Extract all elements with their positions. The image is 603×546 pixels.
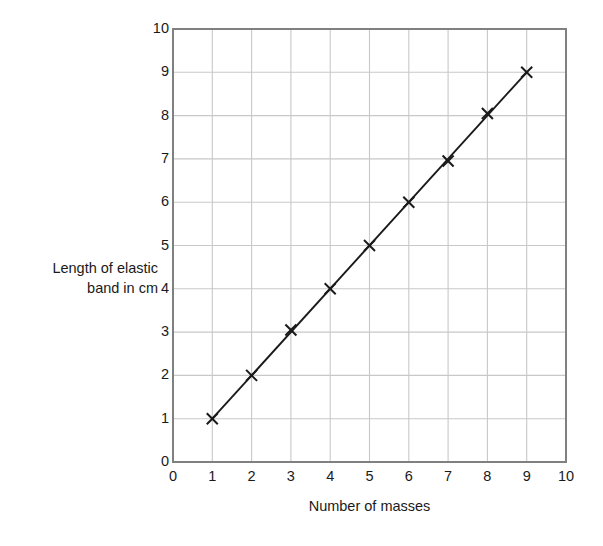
y-tick-label: 10 [143, 20, 169, 36]
y-tick-label: 6 [143, 193, 169, 209]
x-tick-label: 6 [396, 468, 422, 484]
y-tick-label: 8 [143, 107, 169, 123]
x-tick-label: 5 [357, 468, 383, 484]
y-tick-label: 4 [143, 280, 169, 296]
y-tick-label: 0 [143, 453, 169, 469]
y-tick-label: 9 [143, 63, 169, 79]
x-tick-label: 2 [239, 468, 265, 484]
x-tick-label: 0 [160, 468, 186, 484]
x-tick-label: 10 [553, 468, 579, 484]
x-tick-label: 9 [514, 468, 540, 484]
x-tick-label: 8 [474, 468, 500, 484]
y-axis-label: Length of elastic band in cm [8, 258, 158, 298]
x-tick-label: 1 [199, 468, 225, 484]
x-tick-label: 4 [317, 468, 343, 484]
chart-figure: Length of elastic band in cm Number of m… [0, 0, 603, 546]
x-tick-label: 7 [435, 468, 461, 484]
y-tick-label: 1 [143, 410, 169, 426]
x-axis-label: Number of masses [173, 498, 566, 514]
y-tick-label: 3 [143, 323, 169, 339]
y-tick-label: 5 [143, 237, 169, 253]
y-tick-label: 7 [143, 150, 169, 166]
x-tick-label: 3 [278, 468, 304, 484]
y-tick-label: 2 [143, 366, 169, 382]
